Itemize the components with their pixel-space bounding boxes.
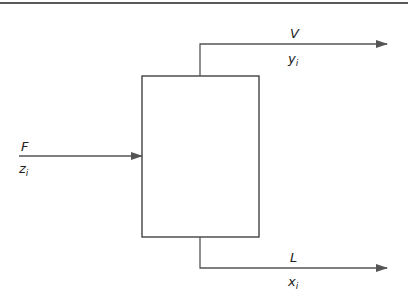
diagram-canvas: F zi V yi L xi [0,0,408,300]
separator-unit-box [142,76,259,237]
liquid-flow-label: L [290,251,297,264]
vapor-composition-subscript: i [296,58,299,68]
liquid-composition-symbol: x [288,274,296,289]
diagram-svg [0,0,408,300]
vapor-composition-label: yi [288,52,298,65]
liquid-composition-subscript: i [296,281,299,291]
feed-composition-subscript: i [26,168,29,178]
feed-flow-name: F [21,139,28,154]
liquid-composition-label: xi [288,275,298,288]
feed-composition-symbol: z [19,161,26,176]
vapor-composition-symbol: y [288,51,296,66]
liquid-flow-name: L [290,250,297,265]
feed-flow-label: F [21,140,28,153]
feed-composition-label: zi [19,162,28,175]
vapor-flow-label: V [290,27,299,40]
vapor-flow-name: V [290,26,299,41]
